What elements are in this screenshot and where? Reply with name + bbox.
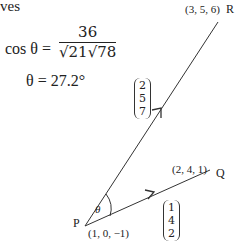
point-P-label: P: [73, 216, 80, 231]
angle-arc: [106, 194, 111, 216]
vector-diagram: [0, 0, 238, 243]
vector-PR-column: 2 5 7: [134, 78, 151, 119]
vector-PQ-column: 1 4 2: [163, 200, 180, 241]
point-Q-coords: (2, 4, 1): [172, 163, 207, 175]
point-P-coords: (1, 0, −1): [88, 227, 129, 239]
angle-label: θ: [95, 203, 100, 215]
point-R-label: R: [226, 2, 234, 17]
point-R-coords: (3, 5, 6): [185, 3, 220, 15]
point-Q-label: Q: [216, 166, 225, 181]
arrowhead-PQ-icon: [145, 190, 154, 199]
